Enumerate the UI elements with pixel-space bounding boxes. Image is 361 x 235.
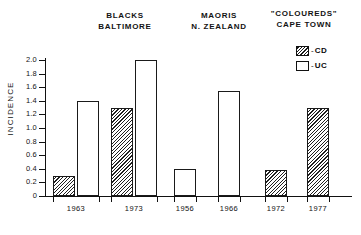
y-axis-tick: [39, 128, 45, 129]
y-axis-tick: [39, 114, 45, 115]
y-axis-tick: [39, 169, 45, 170]
y-axis-tick: [39, 101, 45, 102]
y-axis-tick: [39, 155, 45, 156]
x-axis-tick-label-1956: 1956: [165, 204, 205, 213]
y-axis-tick: [39, 182, 45, 183]
x-axis-tick-labels: 196319731956196619721977: [0, 0, 361, 235]
y-axis-tick: [39, 87, 45, 88]
y-axis-tick: [39, 74, 45, 75]
x-axis-tick-label-1977: 1977: [298, 204, 338, 213]
x-axis-tick-label-1966: 1966: [209, 204, 249, 213]
x-axis-tick-label-1973: 1973: [114, 204, 154, 213]
x-axis-tick-label-1972: 1972: [256, 204, 296, 213]
y-axis-tick: [39, 196, 45, 197]
x-axis-tick-label-1963: 1963: [56, 204, 96, 213]
y-axis-tick: [39, 142, 45, 143]
incidence-bar-chart: BLACKS BALTIMORE MAORIS N. ZEALAND "COLO…: [0, 0, 361, 235]
y-axis-tick: [39, 60, 45, 61]
